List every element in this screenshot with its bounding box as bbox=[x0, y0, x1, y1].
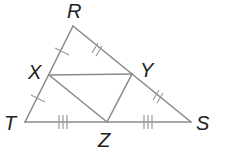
vertex-label-s: S bbox=[196, 113, 209, 133]
triangle-diagram: R X Y T Z S bbox=[0, 0, 228, 158]
midsegment-yz bbox=[107, 74, 132, 122]
vertex-label-r: R bbox=[67, 1, 81, 21]
vertex-label-y: Y bbox=[140, 60, 153, 80]
midsegment-xy bbox=[49, 74, 132, 75]
tick-marks bbox=[31, 43, 163, 129]
vertex-label-z: Z bbox=[98, 130, 110, 150]
vertex-label-x: X bbox=[28, 62, 41, 82]
midsegment-xz bbox=[49, 75, 107, 122]
vertex-label-t: T bbox=[4, 113, 16, 133]
